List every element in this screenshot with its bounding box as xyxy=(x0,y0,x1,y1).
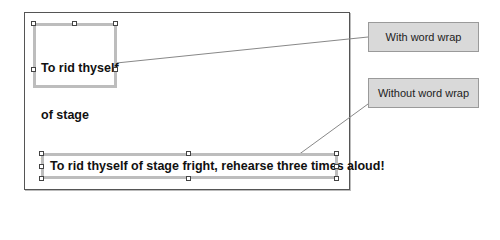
resize-handle-n[interactable] xyxy=(72,21,77,26)
resize-handle-n[interactable] xyxy=(186,151,191,156)
resize-handle-sw[interactable] xyxy=(39,176,44,181)
resize-handle-ne[interactable] xyxy=(113,21,118,26)
wrapped-textbox[interactable]: To rid thyself of stage fright, rehearse… xyxy=(33,23,117,88)
resize-handle-e[interactable] xyxy=(334,164,339,169)
resize-handle-se[interactable] xyxy=(334,176,339,181)
resize-handle-ne[interactable] xyxy=(334,151,339,156)
callout-label: With word wrap xyxy=(386,31,462,43)
wrapped-line: rehearse xyxy=(41,201,119,203)
leader-line-with-wrap xyxy=(97,37,368,65)
callout-label: Without word wrap xyxy=(378,87,469,99)
resize-handle-w[interactable] xyxy=(31,67,36,72)
resize-handle-nw[interactable] xyxy=(31,21,36,26)
callout-with-word-wrap: With word wrap xyxy=(368,22,479,52)
wrapped-line: To rid thyself xyxy=(41,61,119,77)
resize-handle-w[interactable] xyxy=(39,164,44,169)
resize-handle-nw[interactable] xyxy=(39,151,44,156)
resize-handle-e[interactable] xyxy=(113,67,118,72)
callout-without-word-wrap: Without word wrap xyxy=(368,78,479,108)
leader-line-without-wrap xyxy=(294,104,368,158)
resize-handle-s[interactable] xyxy=(186,176,191,181)
wrapped-line: of stage xyxy=(41,108,119,124)
